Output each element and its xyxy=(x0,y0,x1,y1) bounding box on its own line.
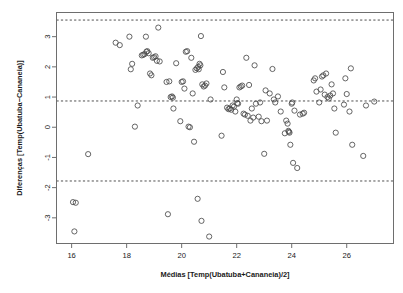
y-tick-label: 1 xyxy=(43,95,52,99)
plot-canvas: 161820222426 -3-2-10123 Médias [Temp(Uba… xyxy=(0,0,403,293)
y-tick-label: -3 xyxy=(43,214,52,221)
y-tick-label: 3 xyxy=(43,35,52,39)
bland-altman-plot: 161820222426 -3-2-10123 Médias [Temp(Uba… xyxy=(0,0,403,293)
y-tick-label: -1 xyxy=(43,154,52,161)
y-axis-title: Diferenças [Temp(Ubatuba−Cananeia)] xyxy=(15,60,24,196)
x-tick-label: 16 xyxy=(67,251,75,260)
y-tick-label: 0 xyxy=(43,125,52,129)
x-tick-label: 20 xyxy=(177,251,185,260)
x-tick-label: 22 xyxy=(232,251,240,260)
x-tick-label: 18 xyxy=(122,251,130,260)
y-tick-label: 2 xyxy=(43,65,52,69)
y-tick-label: -2 xyxy=(43,184,52,191)
x-axis-title: Médias [Temp(Ubatuba+Cananeia)/2] xyxy=(160,270,290,279)
plot-background xyxy=(0,0,403,293)
x-tick-label: 26 xyxy=(343,251,351,260)
x-tick-label: 24 xyxy=(287,251,295,260)
